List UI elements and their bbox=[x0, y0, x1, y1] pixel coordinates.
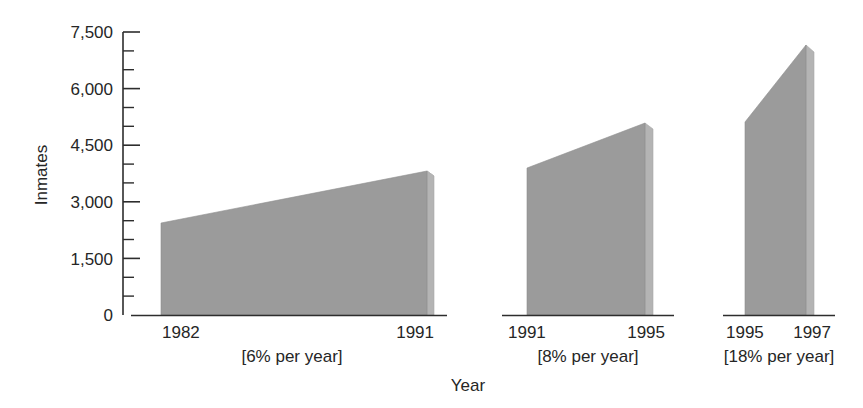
segment-2-end-year-label: 1995 bbox=[627, 323, 665, 342]
y-tick-label-1500: 1,500 bbox=[70, 250, 113, 269]
bar-segment-2-front bbox=[527, 123, 645, 315]
bar-segment-2-side bbox=[645, 123, 653, 315]
bar-segment-2 bbox=[527, 123, 653, 315]
segment-3-start-year-label: 1995 bbox=[726, 323, 764, 342]
x-axis-title: Year bbox=[451, 376, 486, 395]
segment-2-rate-note: [8% per year] bbox=[537, 347, 638, 366]
segment-1-start-year-label: 1982 bbox=[162, 323, 200, 342]
y-tick-label-0: 0 bbox=[104, 306, 113, 325]
bar-segment-3-side bbox=[806, 45, 814, 315]
inmates-growth-chart: Inmates 7,500 6,000 4,500 3,000 1,500 0 bbox=[0, 0, 863, 408]
segment-1-rate-note: [6% per year] bbox=[241, 347, 342, 366]
y-tick-label-4500: 4,500 bbox=[70, 136, 113, 155]
y-axis-title: Inmates bbox=[32, 145, 51, 205]
bar-segment-1 bbox=[161, 171, 434, 315]
segment-2-start-year-label: 1991 bbox=[508, 323, 546, 342]
bar-segment-3-front bbox=[745, 45, 806, 315]
y-tick-label-6000: 6,000 bbox=[70, 80, 113, 99]
segment-1-end-year-label: 1991 bbox=[396, 323, 434, 342]
segment-3-rate-note: [18% per year] bbox=[724, 347, 835, 366]
chart-canvas: Inmates 7,500 6,000 4,500 3,000 1,500 0 bbox=[0, 0, 863, 408]
bar-segment-1-front bbox=[161, 171, 427, 315]
segment-3-end-year-label: 1997 bbox=[793, 323, 831, 342]
bar-segment-1-side bbox=[427, 171, 434, 315]
y-tick-label-3000: 3,000 bbox=[70, 193, 113, 212]
y-tick-label-7500: 7,500 bbox=[70, 23, 113, 42]
bar-segment-3 bbox=[745, 45, 814, 315]
